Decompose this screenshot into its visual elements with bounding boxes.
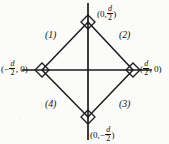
quadrant-label-4: (4) [45,99,56,109]
vertex-label-left-close: , 0) [16,64,28,74]
vertex-label-left-sign: − [4,64,9,74]
fraction-denominator: 2 [143,69,149,77]
vertex-label-bottom-sign: − [100,130,105,140]
quadrant-label-2: (2) [119,30,130,40]
vertex-label-top: (0, d2 ) [97,5,116,22]
quadrant-label-1: (1) [45,30,56,40]
vertex-label-left: (− d2 , 0) [1,60,28,77]
quadrant-label-3: (3) [119,99,130,109]
vertex-label-bottom: (0,− d2 ) [90,126,114,143]
vertex-label-top-close: ) [113,9,116,19]
vertex-label-bottom-close: ) [111,130,114,140]
diamond-coordinate-figure: (0, d2 ) ( d2 , 0) (0,− d2 ) (− d2 , 0) … [0,0,169,144]
vertex-label-bottom-open: (0, [90,130,100,140]
fraction-d-over-2-left: d2 [9,60,15,77]
fraction-d-over-2-right: d2 [143,60,149,77]
vertex-label-top-open: (0, [97,9,107,19]
vertex-label-right-close: , 0) [150,64,162,74]
vertex-label-right: ( d2 , 0) [140,60,162,77]
fraction-denominator: 2 [9,69,15,77]
